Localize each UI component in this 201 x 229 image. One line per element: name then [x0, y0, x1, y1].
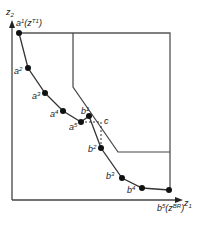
label-a4: a4 [50, 109, 59, 119]
pareto-front [19, 33, 169, 190]
point-a5 [78, 119, 84, 125]
inner-boundary [73, 33, 170, 152]
point-b2 [98, 145, 104, 151]
label-a2: a2 [14, 66, 23, 76]
label-b5: b5(zBR) [157, 203, 184, 213]
label-b3: b3 [106, 171, 115, 181]
point-a2 [25, 65, 31, 71]
y-axis [9, 20, 15, 200]
svg-text:z1: z1 [183, 198, 192, 209]
point-a1 [16, 30, 22, 36]
axis-labels: z2 z1 [5, 7, 192, 209]
point-b4 [139, 185, 145, 191]
diagram-canvas: z2 z1 a1(zT1) a2 a3 a4 a5 b1 b2 b3 b4 b5… [0, 0, 201, 229]
point-labels: a1(zT1) a2 a3 a4 a5 b1 b2 b3 b4 b5(zBR) … [14, 18, 184, 213]
label-a3: a3 [32, 91, 41, 101]
label-a5: a5 [69, 122, 78, 132]
point-b5 [166, 187, 172, 193]
point-a3 [42, 90, 48, 96]
point-b1 [86, 113, 92, 119]
point-a4 [60, 108, 66, 114]
label-b2: b2 [88, 144, 97, 154]
outer-boundary [19, 33, 170, 190]
svg-text:z2: z2 [5, 7, 15, 18]
label-a1: a1(zT1) [16, 18, 42, 28]
label-b4: b4 [127, 185, 136, 195]
points [16, 30, 172, 193]
point-b3 [119, 175, 125, 181]
label-c: c [104, 116, 109, 126]
